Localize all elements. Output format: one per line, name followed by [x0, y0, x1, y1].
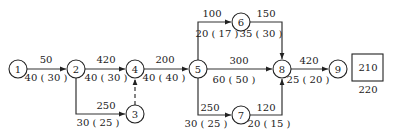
node-9-label: 9 [335, 64, 341, 75]
diagram-svg: 50 40 ( 30 ) 420 40 ( 30 ) 250 30 ( 25 )… [0, 0, 394, 136]
network-diagram: 50 40 ( 30 ) 420 40 ( 30 ) 250 30 ( 25 )… [0, 0, 394, 136]
node-7: 7 [232, 106, 250, 124]
edge-4-5-top-label: 200 [155, 54, 174, 65]
node-1-label: 1 [15, 64, 21, 75]
edge-5-6-top-label: 100 [202, 8, 221, 19]
result-box-below-value: 220 [358, 84, 377, 95]
node-2-label: 2 [73, 64, 79, 75]
edge-2-4-bottom-label: 40 ( 30 ) [85, 72, 128, 83]
edge-4-5-bottom-label: 40 ( 40 ) [143, 72, 186, 83]
edge-2-3-top-label: 250 [96, 100, 115, 111]
node-5: 5 [189, 60, 207, 78]
edge-7-8-bottom-label: 20 ( 15 ) [248, 118, 291, 129]
node-3-label: 3 [132, 109, 138, 120]
node-6: 6 [232, 13, 250, 31]
node-8: 8 [273, 60, 291, 78]
result-box-value: 210 [358, 62, 377, 73]
edge-5-8-bottom-label: 60 ( 50 ) [213, 74, 256, 85]
node-7-label: 7 [238, 110, 244, 121]
node-2: 2 [67, 60, 85, 78]
node-5-label: 5 [195, 64, 201, 75]
node-8-label: 8 [279, 64, 285, 75]
edge-2-3-bottom-label: 30 ( 25 ) [77, 117, 120, 128]
edge-5-6-bottom-label: 20 ( 17 ) [196, 28, 239, 39]
edge-6-8-top-label: 150 [256, 8, 275, 19]
result-box: 210 220 [352, 54, 383, 95]
edge-5-7-bottom-label: 30 ( 25 ) [185, 118, 228, 129]
edge-8-9-bottom-label: 25 ( 20 ) [287, 74, 330, 85]
node-1: 1 [9, 60, 27, 78]
edge-7-8-top-label: 120 [256, 102, 275, 113]
edge-8-9-top-label: 420 [299, 55, 318, 66]
edge-2-4-top-label: 420 [96, 54, 115, 65]
edge-5-8-top-label: 300 [229, 55, 248, 66]
node-4: 4 [126, 60, 144, 78]
edge-5-7-top-label: 250 [200, 102, 219, 113]
edge-1-2-bottom-label: 40 ( 30 ) [25, 72, 68, 83]
node-3: 3 [126, 105, 144, 123]
node-6-label: 6 [238, 17, 244, 28]
node-4-label: 4 [132, 64, 138, 75]
edge-1-2-top-label: 50 [40, 54, 53, 65]
node-9: 9 [329, 60, 347, 78]
